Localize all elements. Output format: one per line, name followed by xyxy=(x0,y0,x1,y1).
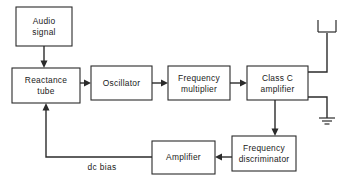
block-frequency-discriminator-label-line2: discriminator xyxy=(239,154,290,164)
block-frequency-multiplier[interactable]: Frequency multiplier xyxy=(168,66,230,100)
block-reactance-tube-label-line1: Reactance xyxy=(25,75,67,85)
block-frequency-discriminator[interactable]: Frequency discriminator xyxy=(232,136,296,171)
block-class-c-amplifier-label-line2: amplifier xyxy=(261,84,295,94)
arrow-head-into-oscillator xyxy=(84,80,91,87)
ground-symbol xyxy=(319,118,335,124)
block-frequency-multiplier-label-line2: multiplier xyxy=(181,84,217,94)
block-amplifier[interactable]: Amplifier xyxy=(152,141,215,174)
block-audio-signal-label-line1: Audio xyxy=(33,16,56,26)
block-class-c-amplifier-rect[interactable] xyxy=(247,66,308,100)
antenna-symbol xyxy=(318,20,336,32)
block-oscillator-label: Oscillator xyxy=(103,78,140,88)
block-class-c-amplifier[interactable]: Class C amplifier xyxy=(247,66,308,100)
arrow-head-into-class-c xyxy=(240,80,247,87)
wire-class-c-to-ground xyxy=(308,97,327,118)
arrow-head-into-amplifier xyxy=(215,154,222,161)
block-audio-signal-label-line2: signal xyxy=(32,27,55,37)
block-reactance-tube-label-line2: tube xyxy=(37,86,54,96)
block-class-c-amplifier-label-line1: Class C xyxy=(262,73,293,83)
block-amplifier-label: Amplifier xyxy=(166,152,201,162)
wire-dc-bias-feedback xyxy=(46,109,152,157)
arrow-head-into-discriminator xyxy=(272,129,279,137)
wire-class-c-to-antenna xyxy=(308,33,327,72)
block-diagram-canvas: Audio signal Reactance tube Oscillator F… xyxy=(0,0,345,185)
arrow-head-into-reactance-top xyxy=(41,61,48,69)
wire-label-dc-bias: dc bias xyxy=(88,162,117,172)
arrow-head-into-multiplier xyxy=(161,80,168,87)
block-frequency-multiplier-rect[interactable] xyxy=(168,66,230,100)
block-reactance-tube[interactable]: Reactance tube xyxy=(12,68,80,103)
block-frequency-discriminator-label-line1: Frequency xyxy=(243,143,285,153)
block-audio-signal[interactable]: Audio signal xyxy=(16,7,72,46)
arrow-head-into-reactance-bottom xyxy=(43,103,50,111)
diagram-svg: Audio signal Reactance tube Oscillator F… xyxy=(0,0,345,185)
block-frequency-multiplier-label-line1: Frequency xyxy=(178,73,220,83)
block-oscillator[interactable]: Oscillator xyxy=(91,66,152,100)
